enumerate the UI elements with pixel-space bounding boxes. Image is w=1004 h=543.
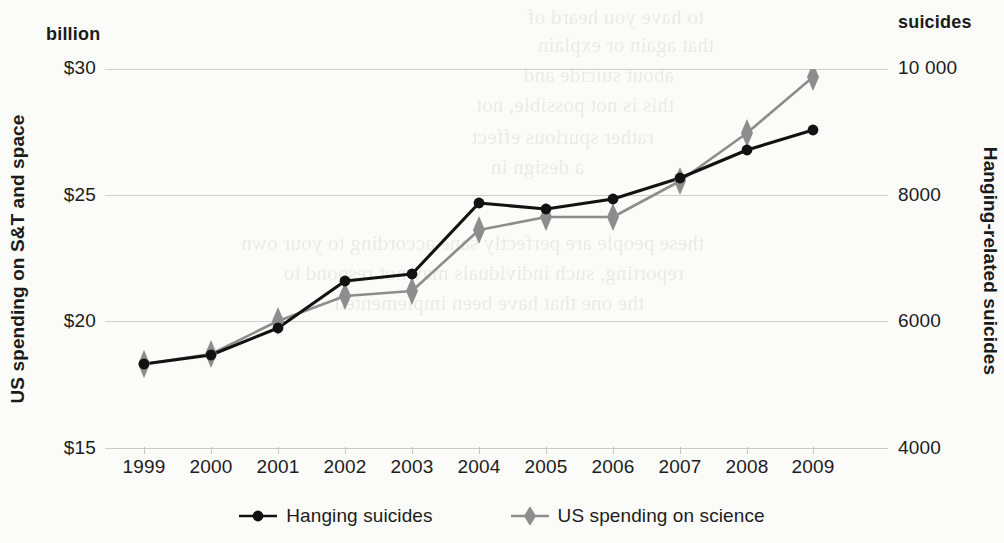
x-axis-tickmark: [613, 447, 614, 454]
right-axis-unit-header: suicides: [898, 12, 972, 33]
x-axis-tick: 2005: [516, 456, 576, 478]
left-axis-title: US spending on S&T and space: [7, 115, 29, 404]
x-axis-tickmark: [479, 447, 480, 454]
x-axis-tick: 2006: [583, 456, 643, 478]
legend-label: Hanging suicides: [286, 505, 432, 527]
right-axis-tick: 6000: [898, 310, 1004, 332]
right-axis-tick: 4000: [898, 437, 1004, 459]
x-axis-tick: 2007: [650, 456, 710, 478]
x-axis-tickmark: [813, 447, 814, 454]
plot-area: [105, 69, 888, 448]
x-axis-tickmark: [747, 447, 748, 454]
left-axis-unit-header: billion: [46, 24, 100, 45]
x-axis-tickmark: [680, 447, 681, 454]
x-axis-tick: 2002: [315, 456, 375, 478]
legend-item-us-spending-on-science[interactable]: US spending on science: [511, 505, 765, 527]
x-axis-tickmark: [144, 447, 145, 454]
left-axis-tick: $20: [6, 310, 96, 332]
series-line-hanging-suicides: [144, 130, 813, 364]
chart-legend: Hanging suicides US spending on science: [0, 505, 1004, 527]
x-axis-tick: 2004: [449, 456, 509, 478]
right-axis-tick: 10 000: [898, 57, 1004, 79]
left-axis-tick: $15: [6, 437, 96, 459]
left-axis-tick: $25: [6, 184, 96, 206]
series-markers-us-spending-on-science: [138, 69, 819, 378]
x-axis-tickmark: [211, 447, 212, 454]
dual-axis-line-chart: billion suicides US spending on S&T and …: [0, 0, 1004, 543]
x-axis-tick: 2009: [783, 456, 843, 478]
legend-label: US spending on science: [558, 505, 765, 527]
diamond-marker-icon: [511, 507, 549, 525]
x-axis-tick: 2001: [248, 456, 308, 478]
x-axis-tickmark: [345, 447, 346, 454]
axis-baseline: [105, 448, 888, 449]
legend-item-hanging-suicides[interactable]: Hanging suicides: [239, 505, 432, 527]
right-axis-title: Hanging-related suicides: [979, 147, 1001, 375]
right-axis-tick: 8000: [898, 184, 1004, 206]
x-axis-tickmark: [412, 447, 413, 454]
x-axis-tick: 1999: [114, 456, 174, 478]
left-axis-tick: $30: [6, 57, 96, 79]
x-axis-tick: 2000: [181, 456, 241, 478]
x-axis-tickmark: [546, 447, 547, 454]
x-axis-tickmark: [278, 447, 279, 454]
x-axis-tick: 2003: [382, 456, 442, 478]
circle-marker-icon: [239, 508, 277, 524]
x-axis-tick: 2008: [717, 456, 777, 478]
